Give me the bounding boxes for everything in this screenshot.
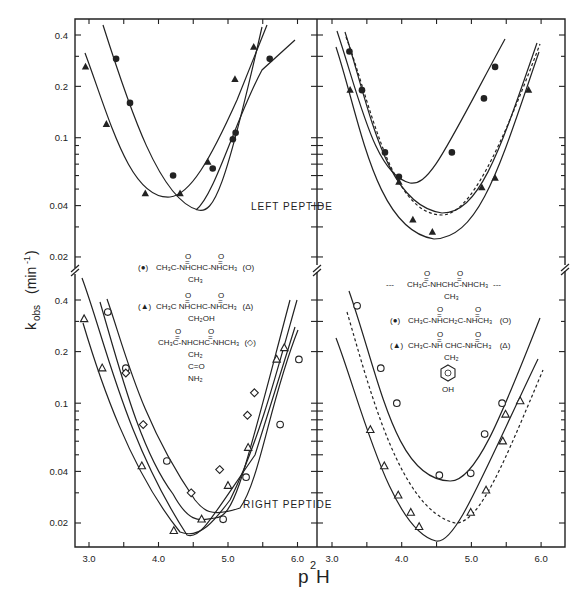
svg-text:CH₂: CH₂ [444, 353, 459, 362]
svg-text:=: = [437, 336, 442, 345]
svg-text:(O): (O) [500, 316, 512, 325]
plot-frame [75, 19, 565, 547]
y-axis-title: k obs (min -1 ) [22, 250, 42, 330]
svg-text:=: = [475, 336, 480, 345]
svg-text:=: = [185, 297, 190, 306]
svg-text:6.0: 6.0 [291, 553, 304, 564]
svg-text:=: = [185, 258, 190, 267]
kinetics-chart: 0.40.20.10.040.020.40.20.10.040.023.04.0… [0, 0, 582, 598]
svg-text:0.1: 0.1 [55, 132, 68, 143]
svg-text:(●): (●) [390, 316, 400, 325]
legend-right-peptides: ---CH₃C-NHCHC-NHCH₃OO==---CH₃(●)CH₃C-NHC… [386, 269, 512, 394]
svg-text:C=O: C=O [188, 362, 205, 371]
left-peptide-label: LEFT PEPTIDE [251, 201, 333, 212]
svg-text:NH₂: NH₂ [188, 374, 203, 383]
svg-text:0.4: 0.4 [55, 295, 68, 306]
svg-text:k: k [22, 322, 39, 330]
svg-text:=: = [457, 275, 462, 284]
svg-text:3.0: 3.0 [82, 553, 95, 564]
svg-text:(●): (●) [138, 263, 148, 272]
svg-text:3.0: 3.0 [325, 553, 338, 564]
svg-text:CH₃C-NHCHC-NHCH₃: CH₃C-NHCHC-NHCH₃ [158, 338, 239, 347]
svg-text:CH₃C-NHCHC-NHCH₃: CH₃C-NHCHC-NHCH₃ [407, 280, 488, 289]
svg-text:=: = [208, 333, 213, 342]
svg-text:---: --- [493, 280, 501, 289]
tick-labels: 0.40.20.10.040.020.40.20.10.040.023.04.0… [50, 30, 548, 565]
svg-text:CH₃: CH₃ [188, 275, 203, 284]
svg-text:(▲): (▲) [138, 302, 152, 311]
svg-text:CH₂OH: CH₂OH [188, 314, 215, 323]
svg-text:=: = [175, 333, 180, 342]
svg-text:0.04: 0.04 [50, 466, 69, 477]
legend-left-peptides: (●)CH₃C-NHCHC-NHCH₃OO==(O)CH₃(▲)CH₃C NHC… [138, 252, 256, 383]
svg-text:(min: (min [23, 267, 39, 294]
svg-text:): ) [23, 250, 39, 255]
svg-text:4.0: 4.0 [395, 553, 408, 564]
svg-text:---: --- [386, 280, 394, 289]
svg-text:CH₃C NHCHC-NHCH₃: CH₃C NHCHC-NHCH₃ [156, 302, 237, 311]
svg-text:6.0: 6.0 [534, 553, 547, 564]
svg-text:=: = [218, 297, 223, 306]
svg-text:0.04: 0.04 [50, 200, 69, 211]
svg-text:CH₃C-NHCHC-NHCH₃: CH₃C-NHCHC-NHCH₃ [156, 263, 237, 272]
svg-text:0.2: 0.2 [55, 346, 68, 357]
svg-text:-1: -1 [22, 256, 32, 264]
svg-text:OH: OH [442, 385, 454, 394]
svg-text:(O): (O) [243, 263, 255, 272]
svg-text:=: = [424, 275, 429, 284]
svg-text:4.0: 4.0 [152, 553, 165, 564]
svg-text:5.0: 5.0 [221, 553, 234, 564]
svg-text:(◇): (◇) [245, 338, 257, 347]
svg-text:(Δ): (Δ) [500, 341, 511, 350]
svg-text:H: H [316, 566, 330, 587]
svg-text:0.02: 0.02 [50, 251, 69, 262]
svg-text:obs: obs [31, 305, 42, 321]
svg-text:=: = [437, 311, 442, 320]
svg-text:=: = [218, 258, 223, 267]
svg-text:=: = [475, 311, 480, 320]
axis-ticks [75, 19, 565, 547]
svg-text:CH₂: CH₂ [188, 350, 203, 359]
svg-text:0.4: 0.4 [55, 30, 68, 41]
svg-text:0.2: 0.2 [55, 81, 68, 92]
svg-text:p: p [298, 566, 309, 587]
svg-text:CH₃: CH₃ [444, 292, 459, 301]
svg-text:(▲): (▲) [390, 341, 404, 350]
svg-text:0.02: 0.02 [50, 517, 69, 528]
right-peptide-label: RIGHT PEPTIDE [243, 499, 333, 510]
svg-text:0.1: 0.1 [55, 398, 68, 409]
svg-text:5.0: 5.0 [465, 553, 478, 564]
svg-text:(Δ): (Δ) [243, 302, 254, 311]
